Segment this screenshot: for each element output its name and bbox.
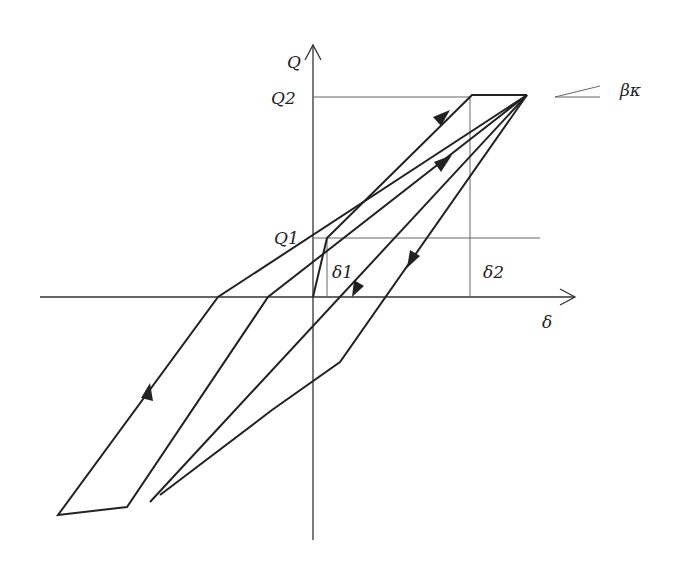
q2-label: Q2 [271,88,296,108]
delta1-label: δ1 [332,262,353,282]
hysteresis-curves [58,95,527,515]
y-axis-label: Q [287,52,301,72]
arrow-down-2-icon [407,250,420,268]
hysteresis-diagram [0,0,693,576]
arrows [141,110,452,401]
arrow-up-2-icon [434,155,452,172]
delta2-label: δ2 [483,262,504,282]
x-axis-label: δ [542,312,552,332]
arrow-up-left-icon [141,383,153,401]
slope-label: βκ [620,80,641,100]
arrow-down-1-icon [352,280,364,297]
q1-label: Q1 [274,228,299,248]
guide-lines [313,86,600,297]
